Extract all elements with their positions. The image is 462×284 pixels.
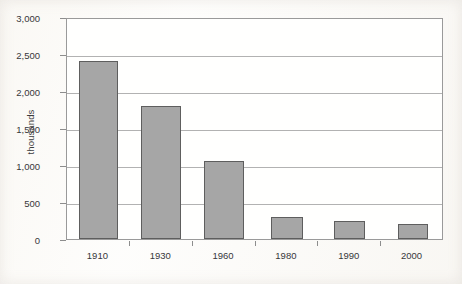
x-tick-label: 1960 (213, 250, 234, 261)
x-tick-mark (317, 241, 318, 246)
gridline (67, 204, 442, 205)
x-tick-label: 1930 (150, 250, 171, 261)
y-tick-label: 1,000 (2, 161, 40, 172)
plot-area (66, 18, 443, 240)
x-tick-mark (255, 241, 256, 246)
gridline (67, 167, 442, 168)
bar (79, 61, 119, 239)
x-tick-mark (192, 241, 193, 246)
y-tick-label: 500 (2, 198, 40, 209)
y-tick-label: 0 (2, 235, 40, 246)
y-tick-label: 2,000 (2, 87, 40, 98)
bar (141, 106, 181, 239)
x-tick-label: 1910 (87, 250, 108, 261)
y-tick-label: 2,500 (2, 50, 40, 61)
x-tick-label: 2000 (401, 250, 422, 261)
bar (334, 221, 365, 239)
y-tick-label: 1,500 (2, 124, 40, 135)
x-tick-mark (129, 241, 130, 246)
gridline (67, 56, 442, 57)
y-tick-label: 3,000 (2, 13, 40, 24)
bar (204, 161, 244, 239)
bar-chart-figure: thousands 05001,0001,5002,0002,5003,000 … (0, 0, 462, 284)
gridline (67, 93, 442, 94)
x-tick-label: 1990 (338, 250, 359, 261)
x-tick-label: 1980 (275, 250, 296, 261)
gridline (67, 130, 442, 131)
bar (398, 224, 428, 239)
bar (271, 217, 304, 239)
x-tick-mark (380, 241, 381, 246)
